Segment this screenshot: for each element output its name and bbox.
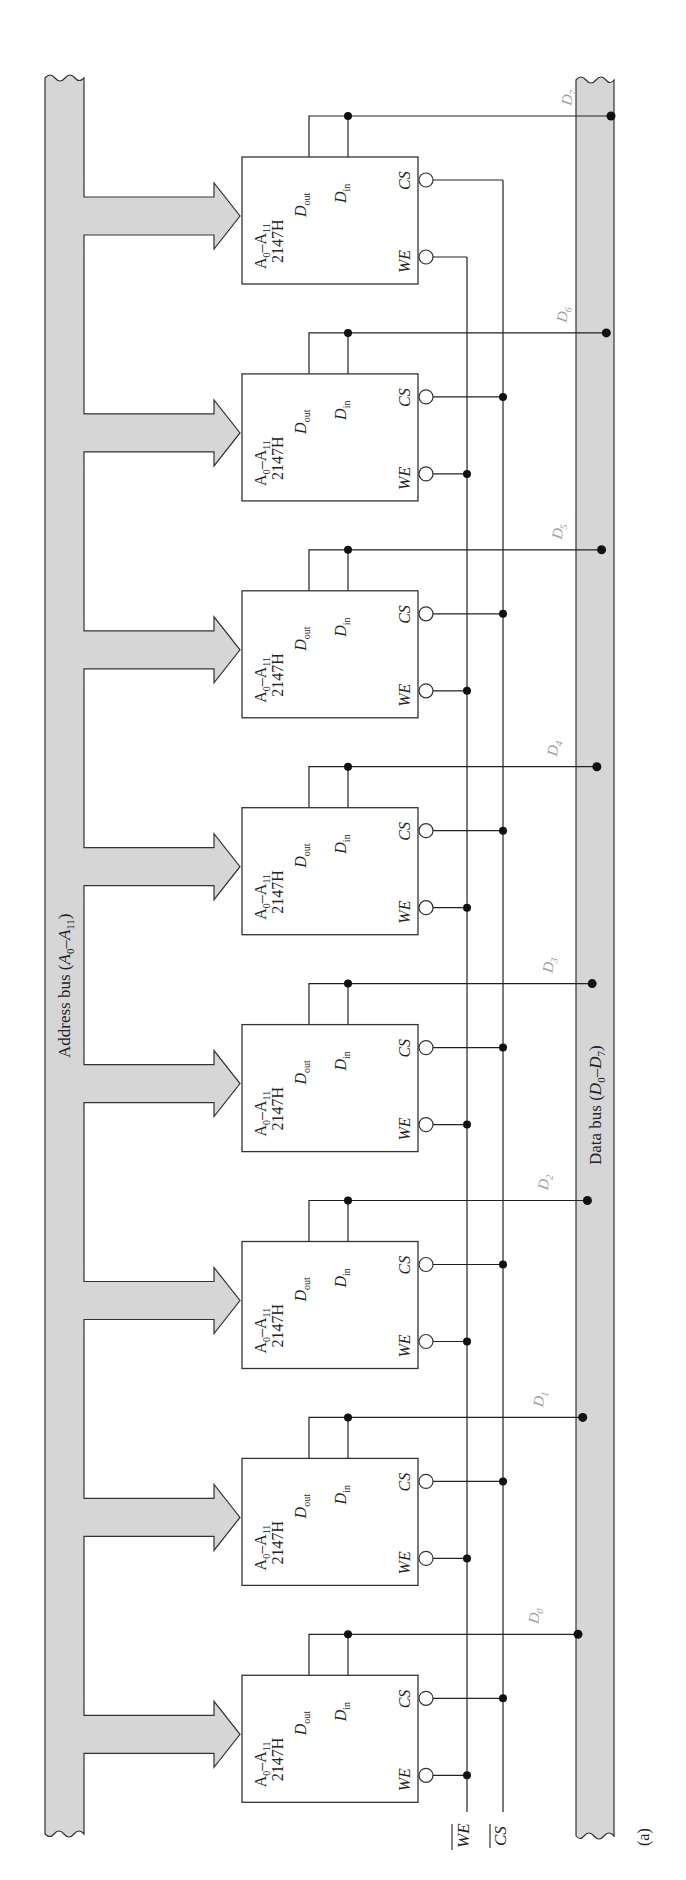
data-line-label: D4 [544,739,565,759]
chip-part-number: 2147H [269,1087,286,1131]
data-line-label: D2 [534,1173,555,1193]
we-junction-dot [463,687,471,695]
cs-pin-label: CS [396,822,413,841]
cs-junction-dot [499,610,507,618]
we-inversion-bubble [419,1335,433,1349]
data-bus-shape [576,77,614,1839]
data-bus-tap-dot [592,762,601,771]
we-inversion-bubble [419,901,433,915]
svg-text:WE: WE [454,1823,473,1848]
cs-pin-label: CS [396,1473,413,1492]
data-line-label: D5 [549,522,570,542]
data-bus-tap-dot [597,545,606,554]
we-pin-label: WE [396,900,413,923]
memory-chip-D0: D0A0–A112147HDoutDinCSWE [242,1606,583,1802]
junction-dot [344,1630,352,1638]
data-line-label: D3 [539,956,560,976]
junction-dot [344,763,352,771]
we-junction-dot [463,1554,471,1562]
dout-wire [309,1417,583,1458]
junction-dot [344,546,352,554]
chip-part-number: 2147H [269,653,286,697]
dout-wire [309,767,597,808]
svg-text:CS: CS [491,1826,510,1846]
dout-wire [309,333,606,374]
we-pin-label: WE [396,683,413,706]
junction-dot [344,112,352,120]
we-inversion-bubble [419,1118,433,1132]
cs-inversion-bubble [419,1691,433,1705]
we-pin-label: WE [396,467,413,490]
memory-chip-D6: D6A0–A112147HDoutDinCSWE [242,305,611,501]
data-bus-label: Data bus (D0–D7) [586,1045,607,1165]
data-bus-tap-dot [588,979,597,988]
data-bus-tap-dot [574,1630,583,1639]
cs-junction-dot [499,1477,507,1485]
we-pin-label: WE [396,1768,413,1791]
memory-chips: D7A0–A112147HDoutDinCSWED6A0–A112147HDou… [242,87,616,1802]
cs-junction-dot [499,1261,507,1269]
we-junction-dot [463,1771,471,1779]
cs-bar-label: CS [490,1824,510,1848]
data-bus-tap-dot [607,112,616,121]
we-pin-label: WE [396,1117,413,1140]
cs-junction-dot [499,393,507,401]
chip-part-number: 2147H [269,870,286,914]
we-inversion-bubble [419,467,433,481]
address-bus [45,75,240,1837]
we-bar-label: WE [452,1823,473,1850]
we-inversion-bubble [419,684,433,698]
memory-chip-D5: D5A0–A112147HDoutDinCSWE [242,522,606,718]
data-line-label: D0 [525,1606,546,1626]
memory-chip-D3: D3A0–A112147HDoutDinCSWE [242,956,597,1152]
data-line-label: D1 [530,1390,551,1410]
data-bus-tap-dot [578,1413,587,1422]
cs-pin-label: CS [396,171,413,190]
cs-inversion-bubble [419,1041,433,1055]
cs-inversion-bubble [419,607,433,621]
cs-inversion-bubble [419,173,433,187]
cs-junction-dot [499,1044,507,1052]
memory-array-diagram: D7A0–A112147HDoutDinCSWED6A0–A112147HDou… [0,0,686,1880]
chip-part-number: 2147H [269,219,286,263]
cs-pin-label: CS [396,1690,413,1709]
cs-inversion-bubble [419,390,433,404]
cs-inversion-bubble [419,1258,433,1272]
control-lines [467,180,503,1812]
chip-part-number: 2147H [269,1737,286,1781]
dout-wire [309,1201,587,1242]
chip-part-number: 2147H [269,1520,286,1564]
we-pin-label: WE [396,250,413,273]
we-junction-dot [463,1121,471,1129]
we-junction-dot [463,1338,471,1346]
we-inversion-bubble [419,1768,433,1782]
memory-chip-D7: D7A0–A112147HDoutDinCSWE [242,87,616,284]
chip-part-number: 2147H [269,436,286,480]
we-pin-label: WE [396,1551,413,1574]
we-junction-dot [463,470,471,478]
dout-wire [309,116,611,157]
we-inversion-bubble [419,1551,433,1565]
cs-pin-label: CS [396,1039,413,1058]
cs-junction-dot [499,827,507,835]
we-inversion-bubble [419,250,433,264]
dout-wire [309,984,592,1025]
cs-pin-label: CS [396,605,413,624]
memory-chip-D1: D1A0–A112147HDoutDinCSWE [242,1390,587,1586]
cs-inversion-bubble [419,824,433,838]
data-bus [576,77,614,1839]
figure-caption: (a) [635,1828,653,1846]
junction-dot [344,329,352,337]
data-line-label: D6 [553,305,574,325]
we-junction-dot [463,904,471,912]
dout-wire [309,1634,578,1675]
cs-inversion-bubble [419,1474,433,1488]
cs-junction-dot [499,1694,507,1702]
memory-chip-D4: D4A0–A112147HDoutDinCSWE [242,739,601,935]
chip-part-number: 2147H [269,1304,286,1348]
cs-pin-label: CS [396,388,413,407]
data-bus-tap-dot [602,328,611,337]
cs-pin-label: CS [396,1256,413,1275]
junction-dot [344,1413,352,1421]
we-pin-label: WE [396,1334,413,1357]
